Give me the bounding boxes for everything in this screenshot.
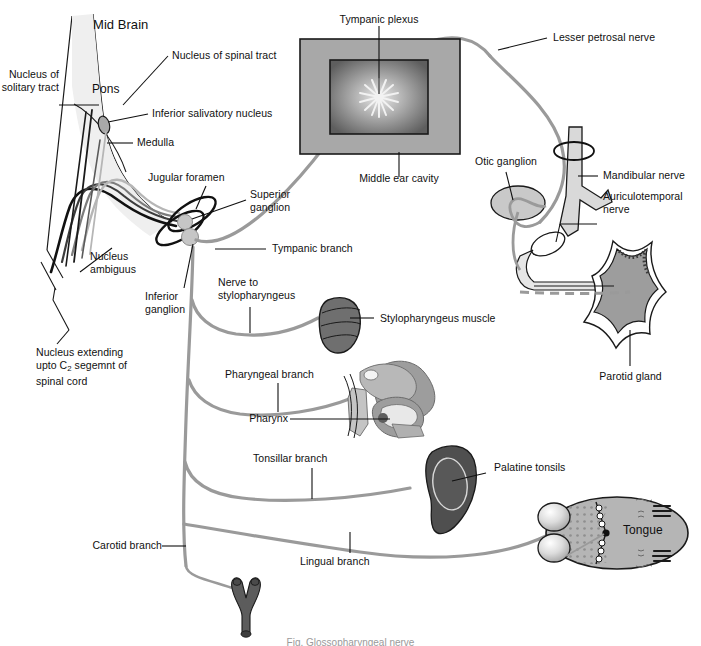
pharynx-illustration <box>344 361 435 438</box>
pharynx-sphenoid-sinus <box>364 370 378 380</box>
tongue-group <box>538 497 688 569</box>
leader-nucleus-spinal <box>123 56 168 105</box>
label-pons: Pons <box>92 83 120 96</box>
label-superior-ganglion: Superior ganglion <box>250 188 290 213</box>
label-nerve-to-stylopharyngeus: Nerve to stylopharyngeus <box>218 276 295 301</box>
label-pharynx: Pharynx <box>230 412 288 425</box>
label-stylopharyngeus-muscle: Stylopharyngeus muscle <box>380 312 496 325</box>
anatomical-figure: Mid Brain Pons Medulla Nucleus of solita… <box>0 0 701 646</box>
label-parotid-gland: Parotid gland <box>588 370 673 383</box>
secretomotor-dashed-path <box>520 292 630 294</box>
label-inferior-ganglion: Inferior ganglion <box>145 290 185 315</box>
palatine-tonsil-group <box>426 446 477 534</box>
stylopharyngeus-muscle-shape <box>319 298 360 353</box>
pharyngeal-branch-path <box>189 380 352 415</box>
pharynx-larynx <box>392 424 424 438</box>
label-nucleus-extending-line2-pre: upto C <box>36 359 67 371</box>
auriculotemporal-loop <box>527 227 568 261</box>
carotid-bifurcation-group <box>232 578 261 637</box>
label-pharyngeal-branch: Pharyngeal branch <box>225 368 314 381</box>
label-nucleus-extending-line2-post: segemnt of <box>72 359 127 371</box>
lingual-branch-path <box>184 524 546 557</box>
label-jugular-foramen: Jugular foramen <box>148 171 225 184</box>
label-tympanic-branch: Tympanic branch <box>272 242 353 255</box>
label-inferior-salivatory-nucleus: Inferior salivatory nucleus <box>152 107 272 120</box>
leader-lesser-petrosal <box>498 38 547 50</box>
epiglottis-left-bulb <box>538 503 570 531</box>
pharynx-tonsil-marker <box>378 413 388 423</box>
carotid-artery-shape <box>232 578 261 634</box>
label-otic-ganglion: Otic ganglion <box>461 155 551 168</box>
carotid-right-tip <box>251 579 259 586</box>
leader-inferior-salivatory <box>108 114 148 122</box>
label-tongue: Tongue <box>623 524 663 537</box>
inferior-ganglion-shape <box>182 229 199 246</box>
label-middle-ear-cavity: Middle ear cavity <box>349 172 449 185</box>
label-mandibular-nerve: Mandibular nerve <box>603 169 685 182</box>
leader-superior-ganglion <box>192 200 246 219</box>
label-nucleus-of-solitary-tract: Nucleus of solitary tract <box>0 68 59 93</box>
label-nucleus-extending: Nucleus extendingupto C2 segemnt ofspina… <box>36 346 127 388</box>
nerve-to-stylopharyngeus-path <box>192 300 318 335</box>
middle-ear-cavity-group <box>300 39 460 154</box>
label-mid-brain: Mid Brain <box>93 19 148 32</box>
superior-ganglion-shape <box>178 215 193 230</box>
label-nucleus-ambiguus: Nucleus ambiguus <box>90 250 136 275</box>
figure-caption: Fig. Glossopharyngeal nerve <box>0 637 701 646</box>
label-lesser-petrosal-nerve: Lesser petrosal nerve <box>553 31 655 44</box>
stylopharyngeus-muscle-group <box>319 298 361 353</box>
label-carotid-branch: Carotid branch <box>60 539 162 552</box>
label-nucleus-of-spinal-tract: Nucleus of spinal tract <box>172 49 276 62</box>
label-lingual-branch: Lingual branch <box>300 555 370 568</box>
spinal-cord-descending-edge <box>53 288 69 330</box>
label-palatine-tonsils: Palatine tonsils <box>494 461 565 474</box>
carotid-left-tip <box>233 579 241 586</box>
label-nucleus-extending-line3: spinal cord <box>36 375 87 387</box>
label-tonsillar-branch: Tonsillar branch <box>253 452 327 465</box>
epiglottis-right-bulb <box>538 534 570 562</box>
label-tympanic-plexus: Tympanic plexus <box>319 13 439 26</box>
label-auriculotemporal-nerve: Auriculotemporal nerve <box>603 190 683 215</box>
leader-nucleus-extending <box>57 330 69 344</box>
label-nucleus-extending-line1: Nucleus extending <box>36 346 123 358</box>
foramen-cecum <box>602 529 609 536</box>
tonsillar-branch-path <box>185 462 410 500</box>
label-medulla: Medulla <box>137 136 174 149</box>
